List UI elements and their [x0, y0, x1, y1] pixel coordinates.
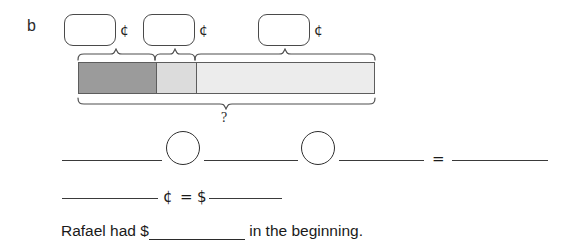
answer-sentence-suffix: in the beginning. — [245, 222, 363, 239]
total-brace — [78, 98, 375, 109]
operator-circle-2[interactable] — [301, 131, 335, 165]
bar-segment-3 — [196, 63, 374, 93]
equation-blank-1[interactable] — [62, 160, 162, 161]
bar-segment-1 — [79, 63, 156, 93]
dollar-symbol-conversion: $ — [197, 188, 207, 206]
equation-blank-2[interactable] — [204, 160, 298, 161]
answer-sentence-blank[interactable] — [149, 226, 245, 240]
bar-model — [78, 62, 375, 94]
answer-sentence-prefix: Rafael had $ — [61, 222, 149, 239]
conversion-cents-blank[interactable] — [62, 198, 158, 199]
answer-sentence: Rafael had $ in the beginning. — [61, 222, 363, 240]
cent-symbol-1: ¢ — [120, 22, 129, 38]
equation-blank-3[interactable] — [339, 160, 424, 161]
bar-segment-2 — [156, 63, 196, 93]
value-box-2[interactable] — [143, 14, 195, 46]
top-brace-1 — [78, 49, 155, 60]
equals-sign-1: = — [432, 150, 445, 168]
value-box-1[interactable] — [64, 14, 116, 46]
top-brace-3 — [195, 49, 375, 60]
unknown-question-mark: ? — [221, 110, 227, 126]
cent-symbol-conversion: ¢ — [163, 188, 173, 206]
worksheet-page: b ¢ ¢ ¢ ? = ¢ = $ Rafael — [0, 0, 573, 249]
equals-sign-2: = — [180, 188, 193, 206]
equation-result-blank[interactable] — [452, 160, 548, 161]
part-label: b — [27, 17, 36, 35]
top-brace-2 — [155, 49, 195, 60]
value-box-3[interactable] — [258, 14, 310, 46]
operator-circle-1[interactable] — [166, 131, 200, 165]
cent-symbol-3: ¢ — [314, 22, 323, 38]
cent-symbol-2: ¢ — [199, 22, 208, 38]
conversion-dollars-blank[interactable] — [209, 198, 282, 199]
